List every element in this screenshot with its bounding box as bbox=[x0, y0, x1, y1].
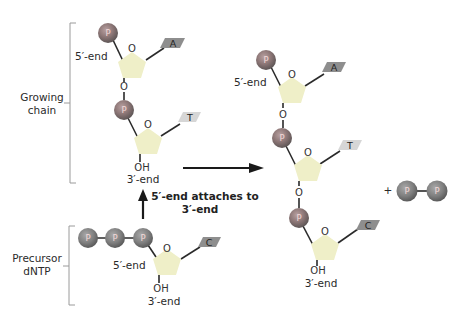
growing-nucleotide-t: P O T OH 3′-end bbox=[114, 100, 201, 185]
phosphodiester-oxygen: O bbox=[295, 187, 303, 198]
sugar-ring bbox=[118, 52, 146, 78]
precursor-label-line1: Precursor bbox=[12, 252, 62, 264]
precursor-label-line2: dNTP bbox=[23, 265, 50, 277]
up-arrow-icon bbox=[138, 189, 148, 219]
hydroxyl-label: OH bbox=[153, 283, 168, 294]
three-prime-end-label: 3′-end bbox=[127, 173, 160, 185]
three-prime-end-label: 3′-end bbox=[305, 277, 338, 289]
base-label: A bbox=[331, 62, 338, 73]
five-prime-end-label: 5′-end bbox=[234, 76, 267, 88]
five-prime-end-label: 5′-end bbox=[113, 259, 146, 271]
sugar-ring bbox=[134, 128, 162, 154]
phosphodiester-oxygen: O bbox=[279, 109, 287, 120]
growing-chain-label-line2: chain bbox=[28, 104, 56, 116]
phosphate-label: P bbox=[404, 186, 409, 196]
ring-oxygen: O bbox=[163, 243, 171, 254]
phosphate-label: P bbox=[112, 233, 117, 243]
plus-sign: + bbox=[384, 184, 393, 196]
product-nucleotide-t: P O T bbox=[272, 128, 362, 181]
product-nucleotide-a: P O A 5′-end bbox=[234, 50, 346, 103]
phosphate-label: P bbox=[279, 133, 284, 143]
phosphate-label: P bbox=[140, 233, 145, 243]
three-prime-end-label: 3′-end bbox=[148, 295, 181, 307]
growing-chain-label-line1: Growing bbox=[20, 91, 63, 103]
phosphodiester-oxygen: O bbox=[120, 81, 128, 92]
hydroxyl-label: OH bbox=[134, 162, 149, 173]
precursor-dntp: P P P O C 5′-end OH 3′-end bbox=[78, 228, 221, 307]
arrow-caption-line1: 5′-end attaches to bbox=[151, 190, 258, 202]
ring-oxygen: O bbox=[144, 119, 152, 130]
phosphate-label: P bbox=[296, 213, 301, 223]
phosphate-label: P bbox=[434, 186, 439, 196]
growing-nucleotide-a: P O A 5′-end bbox=[75, 23, 185, 78]
hydroxyl-label: OH bbox=[310, 265, 325, 276]
ring-oxygen: O bbox=[321, 226, 329, 237]
sugar-ring bbox=[311, 234, 339, 260]
base-label: A bbox=[170, 38, 177, 49]
five-prime-end-label: 5′-end bbox=[75, 50, 108, 62]
precursor-bracket bbox=[63, 226, 75, 305]
growing-chain-bracket bbox=[64, 23, 76, 183]
arrow-caption-line2: 3′-end bbox=[182, 203, 219, 215]
base-label: T bbox=[346, 140, 353, 151]
product-nucleotide-c: P O C OH 3′-end bbox=[289, 208, 380, 289]
phosphate-label: P bbox=[263, 55, 268, 65]
base-label: T bbox=[186, 112, 193, 123]
ring-oxygen: O bbox=[128, 43, 136, 54]
sugar-ring bbox=[278, 77, 306, 103]
sugar-ring bbox=[294, 155, 322, 181]
phosphate-label: P bbox=[105, 28, 110, 38]
pyrophosphate: + P P bbox=[384, 181, 448, 202]
ring-oxygen: O bbox=[288, 69, 296, 80]
ring-oxygen: O bbox=[304, 147, 312, 158]
phosphate-label: P bbox=[121, 105, 126, 115]
base-label: C bbox=[365, 220, 372, 231]
dna-synthesis-diagram: Growing chain P O A 5′-end O P O T OH 3′… bbox=[0, 0, 463, 321]
phosphate-label: P bbox=[85, 233, 90, 243]
base-label: C bbox=[206, 237, 213, 248]
right-arrow-icon bbox=[183, 163, 264, 173]
